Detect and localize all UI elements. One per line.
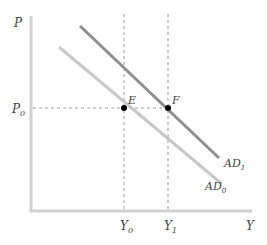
ad-shift-diagram: P Y P0 Y0 Y1 E F AD1 AD0 [0, 0, 267, 245]
point-e-label: E [127, 94, 136, 107]
y1-tick-label: Y1 [164, 219, 177, 235]
point-e [121, 105, 127, 111]
point-f [165, 105, 171, 111]
point-f-label: F [171, 94, 180, 107]
x-axis-label: Y [246, 219, 255, 233]
y-axis-label: P [13, 16, 23, 30]
ad0-curve [59, 47, 222, 184]
p0-tick-label: P0 [11, 102, 25, 118]
y0-tick-label: Y0 [120, 219, 133, 235]
ad1-label: AD1 [223, 157, 245, 172]
ad0-label: AD0 [204, 180, 227, 195]
ad1-curve [80, 26, 219, 158]
